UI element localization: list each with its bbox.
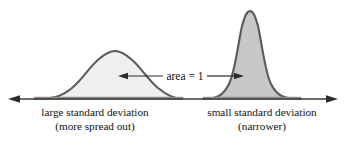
small-sd-curve-fill xyxy=(204,11,300,99)
large-sd-curve-fill xyxy=(35,51,182,99)
large-sd-caption: large standard deviation (more spread ou… xyxy=(0,106,190,133)
axis-right-arrowhead xyxy=(326,95,338,103)
large-sd-caption-line1: large standard deviation xyxy=(0,106,190,120)
small-sd-caption-line1: small standard deviation xyxy=(178,106,346,120)
large-sd-caption-line2: (more spread out) xyxy=(0,120,190,134)
small-sd-caption: small standard deviation (narrower) xyxy=(178,106,346,133)
small-sd-caption-line2: (narrower) xyxy=(178,120,346,134)
normal-distribution-figure: area = 1 large standard deviation (more … xyxy=(0,0,346,151)
area-annotation-text: area = 1 xyxy=(166,70,203,82)
axis-left-arrowhead xyxy=(8,95,20,103)
